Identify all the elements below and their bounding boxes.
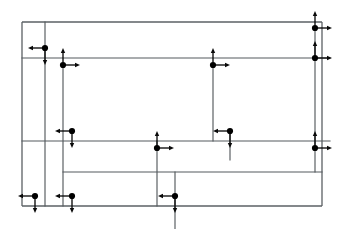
node-bottom-left <box>32 193 38 199</box>
node-bottom-center <box>172 193 178 199</box>
node-bottom-center-arrow-down-head <box>173 208 177 213</box>
node-middle-left <box>69 128 75 134</box>
node-upper-mid-arrow-up <box>211 48 215 62</box>
node-middle-center-arrow-right <box>160 146 174 150</box>
node-upper-mid <box>210 62 216 68</box>
node-middle-far-right-arrow-right <box>318 146 332 150</box>
node-bottom-center-arrow-left <box>158 194 172 198</box>
node-top-right-outer-arrow-up-head <box>313 11 317 16</box>
node-top-right-outer-arrow-right-head <box>327 26 332 30</box>
node-upper-right <box>312 55 318 61</box>
node-middle-center-arrow-up <box>155 131 159 145</box>
node-bottom-center-arrow-left-head <box>158 194 163 198</box>
node-upper-left-lower-arrow-right-head <box>75 63 80 67</box>
node-upper-left-arrow-left-head <box>28 46 33 50</box>
node-top-right-outer-arrow-right <box>318 26 332 30</box>
node-upper-mid-arrow-up-head <box>211 48 215 53</box>
node-middle-center-arrow-right-head <box>169 146 174 150</box>
node-middle-right-arrow-down-head <box>228 143 232 148</box>
node-upper-right-arrow-right-head <box>327 56 332 60</box>
node-upper-left-lower-arrow-right <box>66 63 80 67</box>
node-middle-center-arrow-up-head <box>155 131 159 136</box>
node-bottom-left-arrow-down-head <box>33 208 37 213</box>
node-bottom-left-inner <box>69 193 75 199</box>
diagram-svg <box>0 0 348 229</box>
node-bottom-left-inner-arrow-left-head <box>55 194 60 198</box>
node-middle-right-arrow-left <box>213 129 227 133</box>
node-upper-right-arrow-right <box>318 56 332 60</box>
node-top-right-outer <box>312 25 318 31</box>
node-middle-right <box>227 128 233 134</box>
node-upper-left-arrow-left <box>28 46 42 50</box>
node-middle-far-right <box>312 145 318 151</box>
node-bottom-left-inner-arrow-down-head <box>70 208 74 213</box>
node-bottom-left-inner-arrow-left <box>55 194 69 198</box>
node-bottom-left-arrow-left <box>18 194 32 198</box>
node-middle-right-arrow-left-head <box>213 129 218 133</box>
node-middle-left-arrow-left <box>55 129 69 133</box>
node-upper-left <box>42 45 48 51</box>
node-top-right-outer-arrow-up <box>313 11 317 25</box>
node-upper-mid-arrow-right-head <box>225 63 230 67</box>
node-bottom-left-arrow-left-head <box>18 194 23 198</box>
node-upper-left-lower-arrow-up-head <box>61 48 65 53</box>
node-upper-left-lower <box>60 62 66 68</box>
node-middle-left-arrow-down-head <box>70 143 74 148</box>
node-middle-center <box>154 145 160 151</box>
node-upper-mid-arrow-right <box>216 63 230 67</box>
node-middle-left-arrow-left-head <box>55 129 60 133</box>
node-upper-left-lower-arrow-up <box>61 48 65 62</box>
node-middle-far-right-arrow-up-head <box>313 131 317 136</box>
node-middle-far-right-arrow-right-head <box>327 146 332 150</box>
node-upper-left-arrow-down-head <box>43 60 47 65</box>
diagram-canvas <box>0 0 348 229</box>
node-upper-right-arrow-up <box>313 41 317 55</box>
node-middle-far-right-arrow-up <box>313 131 317 145</box>
node-upper-right-arrow-up-head <box>313 41 317 46</box>
